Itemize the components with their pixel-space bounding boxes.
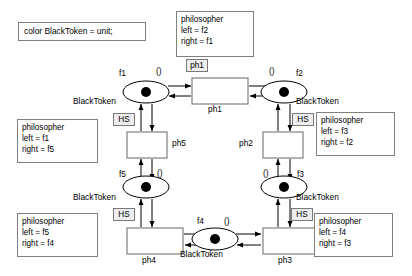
transition-label-ph2: ph2 xyxy=(239,138,253,148)
philosopher-right-fork: right = f5 xyxy=(22,144,93,155)
hs-badge-ph1: ph1 xyxy=(186,59,208,72)
arc-inscription-f3: () xyxy=(263,168,269,178)
colorset-label-f1: BlackToken xyxy=(73,96,116,106)
transition-label-ph5: ph5 xyxy=(172,138,186,148)
philosopher-right-fork: right = f4 xyxy=(22,238,93,249)
transition-ph5[interactable] xyxy=(127,132,167,158)
philosopher-left-fork: left = f5 xyxy=(22,227,93,238)
place-f1[interactable] xyxy=(123,81,169,103)
place-label-f5: f5 xyxy=(119,169,126,179)
philosopher-title: philosopher xyxy=(22,122,93,133)
transition-label-ph3: ph3 xyxy=(278,255,292,265)
place-label-f2: f2 xyxy=(296,68,303,78)
hs-badge-ph4: HS xyxy=(113,208,135,221)
philosopher-left-fork: left = f2 xyxy=(181,25,249,36)
transition-ph1[interactable] xyxy=(192,78,248,104)
place-label-f3: f3 xyxy=(297,169,304,179)
petri-net-canvas: color BlackToken = unit; philosopher lef… xyxy=(0,0,412,276)
philosopher-title: philosopher xyxy=(181,14,249,25)
arc-inscription-f2: () xyxy=(269,66,275,76)
philosopher-box-ph2: philosopher left = f3 right = f2 xyxy=(316,112,395,156)
transition-label-ph4: ph4 xyxy=(142,255,156,265)
philosopher-left-fork: left = f3 xyxy=(321,126,390,137)
colorset-label-f5: BlackToken xyxy=(73,192,116,202)
colorset-label-f3: BlackToken xyxy=(296,192,339,202)
place-label-f1: f1 xyxy=(119,68,126,78)
colorset-label-f4: BlackToken xyxy=(180,249,223,259)
place-label-f4: f4 xyxy=(197,216,204,226)
declaration-text: color BlackToken = unit; xyxy=(24,26,113,36)
transition-ph4[interactable] xyxy=(127,228,183,254)
philosopher-title: philosopher xyxy=(319,216,388,227)
arc-inscription-f5: () xyxy=(157,168,163,178)
hs-badge-ph2: HS xyxy=(292,113,314,126)
philosopher-right-fork: right = f3 xyxy=(319,238,388,249)
philosopher-left-fork: left = f4 xyxy=(319,227,388,238)
hs-badge-ph3: HS xyxy=(291,208,313,221)
philosopher-left-fork: left = f1 xyxy=(22,133,93,144)
transition-ph3[interactable] xyxy=(263,228,319,254)
place-f5[interactable] xyxy=(123,176,169,198)
philosopher-title: philosopher xyxy=(321,115,390,126)
philosopher-box-ph5: philosopher left = f1 right = f5 xyxy=(17,119,98,163)
colorset-label-f2: BlackToken xyxy=(296,96,339,106)
philosopher-title: philosopher xyxy=(22,216,93,227)
transition-label-ph1: ph1 xyxy=(208,104,222,114)
declaration-box: color BlackToken = unit; xyxy=(18,22,146,41)
philosopher-box-ph1: philosopher left = f2 right = f1 xyxy=(176,11,254,57)
philosopher-right-fork: right = f1 xyxy=(181,36,249,47)
arc-inscription-f1: () xyxy=(156,66,162,76)
hs-badge-ph5: HS xyxy=(113,113,135,126)
transition-ph2[interactable] xyxy=(263,132,303,158)
arc-inscription-f4: () xyxy=(224,216,230,226)
philosopher-box-ph3: philosopher left = f4 right = f3 xyxy=(314,213,393,257)
place-f4[interactable] xyxy=(192,228,238,250)
philosopher-box-ph4: philosopher left = f5 right = f4 xyxy=(17,213,98,257)
philosopher-right-fork: right = f2 xyxy=(321,137,390,148)
